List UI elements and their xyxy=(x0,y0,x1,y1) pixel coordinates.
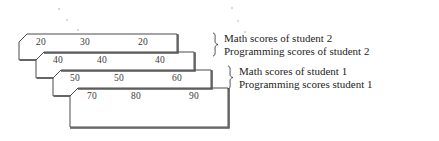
speck xyxy=(237,20,239,22)
brace-student-1-icon xyxy=(228,66,233,89)
sheet-4-cell-2: 90 xyxy=(189,91,199,101)
label-math-student-2: Math scores of student 2 xyxy=(224,32,332,44)
scan-specks xyxy=(58,7,246,33)
label-programming-student-1: Programming scores student 1 xyxy=(239,78,373,90)
sheet-2-cell-0: 40 xyxy=(53,55,63,65)
sheet-4-cell-1: 80 xyxy=(131,91,141,101)
sheet-1-cell-1: 30 xyxy=(80,37,90,47)
label-group: Math scores of student 2 Programming sco… xyxy=(224,32,373,90)
speck xyxy=(77,29,79,31)
sheet-2-cell-2: 40 xyxy=(155,55,165,65)
sheet-1-cell-0: 20 xyxy=(36,37,46,47)
sheet-3-cell-0: 50 xyxy=(70,73,80,83)
stacked-array-diagram: 70 80 90 50 50 60 40 40 40 20 30 20 Math… xyxy=(0,0,439,141)
sheet-3-cell-2: 60 xyxy=(172,73,182,83)
sheet-2-cell-1: 40 xyxy=(97,55,107,65)
brace-student-2-icon xyxy=(213,33,218,56)
label-math-student-1: Math scores of student 1 xyxy=(239,65,347,77)
speck xyxy=(66,19,68,21)
sheet-1-cell-2: 20 xyxy=(138,37,148,47)
speck xyxy=(58,8,60,10)
sheet-4: 70 80 90 xyxy=(70,88,229,128)
sheet-3-cell-1: 50 xyxy=(114,73,124,83)
speck xyxy=(231,7,233,9)
label-programming-student-2: Programming scores of student 2 xyxy=(224,45,369,57)
sheet-4-cell-0: 70 xyxy=(87,91,97,101)
